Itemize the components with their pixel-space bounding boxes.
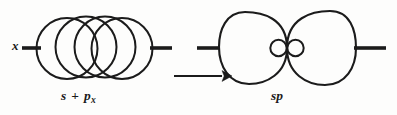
right-orbital-node-circle-left [270, 40, 286, 56]
reaction-arrow-group [174, 71, 232, 82]
right-diagram-caption: sp [271, 88, 283, 104]
caption-orbital-p: p [84, 88, 91, 103]
left-orbital-group [22, 17, 172, 80]
caption-plus-operator: + [70, 88, 80, 103]
right-orbital-node-circle-right [287, 40, 303, 56]
right-orbital-lobe-right [287, 11, 356, 85]
left-orbital-circle-4 [92, 18, 153, 79]
right-orbital-lobe-left [219, 12, 287, 84]
orbital-diagram-canvas [0, 0, 397, 115]
caption-orbital-p-subscript: x [91, 95, 96, 105]
orbital-hybridization-figure: x s + px sp [0, 0, 397, 115]
left-diagram-caption: s + px [61, 88, 96, 105]
caption-orbital-s: s [61, 88, 67, 103]
left-orbital-circle-3 [75, 17, 136, 78]
x-axis-label: x [12, 38, 19, 54]
